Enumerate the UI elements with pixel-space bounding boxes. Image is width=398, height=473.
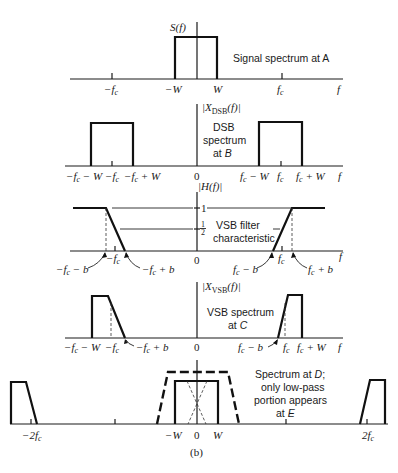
arrow-fc-plus-b — [293, 253, 307, 268]
vsb-desc-line1: VSB spectrum — [207, 306, 274, 318]
ylabel-x-dsb: |XDSB(f)| — [202, 101, 241, 116]
ylabel-x-vsb: |XVSB(f)| — [202, 280, 241, 295]
label-fc-minus-b: fc − b — [238, 341, 264, 355]
signal-rect — [175, 37, 217, 79]
label-w: W — [213, 83, 223, 95]
panel-vsb-spectrum: |XVSB(f)| VSB spectrum at C −fc − W −fc … — [64, 280, 343, 355]
vsb-left-shape — [92, 296, 125, 338]
label-f: f — [338, 170, 343, 182]
label-neg-fc: −fc — [104, 83, 118, 97]
demod-desc-line3: portion appears — [254, 394, 327, 406]
label-neg-w: −W — [165, 83, 182, 95]
vsb-right-shape — [278, 295, 302, 338]
vsb-desc-line2: at C — [228, 319, 248, 331]
label-fc: fc — [283, 341, 290, 355]
dsb-desc-line3: at B — [213, 147, 232, 159]
label-fc: fc — [277, 170, 284, 184]
label-neg-2fc: −2fc — [22, 429, 42, 443]
label-neg-fc: −fc — [106, 252, 120, 266]
filter-left-edge — [73, 208, 125, 251]
label-fc-plus-w: fc + W — [296, 170, 326, 184]
panel-vsb-filter: |H(f)| 1 1 2 VSB filter characteristic −… — [56, 180, 344, 277]
dsb-desc-line1: DSB — [213, 121, 235, 133]
label-neg-fc: −fc — [105, 341, 119, 355]
label-neg-w: −W — [165, 429, 182, 441]
filter-desc-line2: characteristic — [213, 232, 275, 244]
label-fc-plus-b: fc + b — [308, 263, 334, 277]
label-neg-fc-minus-w: −fc − W — [66, 170, 103, 184]
demod-desc-line1: Spectrum at D; — [255, 368, 325, 380]
label-neg-fc-minus-w: −fc − W — [64, 341, 101, 355]
label-zero: 0 — [194, 254, 200, 266]
label-half-den: 2 — [201, 228, 205, 237]
label-f: f — [339, 250, 344, 262]
demod-desc-line4: at E — [276, 407, 296, 419]
right-image-shape — [360, 380, 385, 424]
left-image-shape — [11, 382, 37, 424]
arrow-neg-fc-minus-b — [88, 253, 105, 268]
ylabel-s-f: S(f) — [170, 21, 186, 34]
label-f: f — [337, 83, 342, 95]
label-zero: 0 — [194, 341, 200, 353]
filter-desc-line1: VSB filter — [216, 219, 260, 231]
signal-description: Signal spectrum at A — [233, 52, 329, 64]
arrow-neg-fc-plus-b — [126, 253, 140, 268]
dsb-desc-line2: spectrum — [203, 134, 246, 146]
label-neg-fc-plus-b: −fc + b — [136, 341, 169, 355]
arrow-fc-minus-b — [257, 253, 272, 268]
label-fc-minus-b: fc − b — [233, 263, 259, 277]
label-fc: fc — [277, 83, 284, 97]
dsb-right-rect — [259, 122, 302, 166]
arrowhead-icon — [269, 252, 274, 258]
label-neg-fc-plus-b: −fc + b — [142, 263, 175, 277]
panel-dsb-spectrum: |XDSB(f)| DSB spectrum at B −fc − W −fc … — [65, 101, 343, 184]
arrowhead-icon — [291, 252, 296, 258]
label-w: W — [213, 429, 223, 441]
vsb-modulation-diagram: S(f) Signal spectrum at A −fc −W W fc f … — [0, 0, 398, 473]
demod-desc-line2: only low-pass — [261, 381, 325, 393]
label-neg-fc: −fc — [105, 170, 119, 184]
ylabel-h-f: |H(f)| — [198, 180, 222, 193]
label-fc-plus-w: fc + W — [297, 341, 327, 355]
panel-demod-spectrum: Spectrum at D; only low-pass portion app… — [10, 360, 388, 443]
label-neg-fc-minus-b: −fc − b — [56, 263, 89, 277]
label-one: 1 — [201, 202, 207, 214]
label-2fc: 2fc — [362, 429, 375, 443]
dsb-left-rect — [91, 123, 133, 166]
figure-caption: (b) — [190, 446, 203, 459]
filter-right-edge — [273, 208, 325, 251]
label-neg-fc-plus-w: −fc + W — [124, 170, 161, 184]
baseband-dashed-trapezoid — [157, 372, 239, 424]
label-fc-minus-w: fc − W — [240, 170, 270, 184]
panel-signal-spectrum: S(f) Signal spectrum at A −fc −W W fc f — [70, 21, 343, 97]
label-f: f — [338, 341, 343, 353]
label-zero: 0 — [194, 429, 200, 441]
arrowhead-icon — [124, 252, 129, 258]
label-fc: fc — [278, 252, 285, 266]
